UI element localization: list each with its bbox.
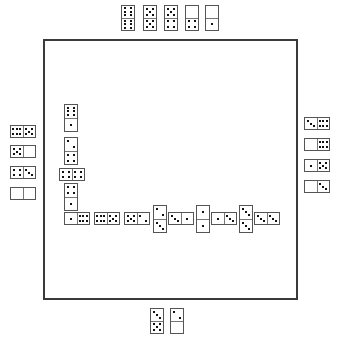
west-hand-domino-6-5[interactable]	[10, 125, 36, 138]
pip-icon	[112, 218, 114, 220]
north-hand-domino-5-4[interactable]	[164, 5, 178, 31]
pip-icon	[326, 141, 328, 143]
west-hand-domino-5-0[interactable]	[10, 145, 36, 158]
pip-icon	[307, 120, 309, 122]
pip-icon	[109, 220, 111, 222]
north-hand-domino-0-1[interactable]	[205, 5, 219, 31]
domino-half-3	[154, 219, 166, 233]
domino-half-5	[317, 160, 330, 171]
pip-icon	[100, 220, 102, 222]
pip-icon	[319, 146, 321, 148]
domino-half-6	[317, 118, 330, 129]
pip-icon	[73, 114, 75, 116]
chain-domino-2-4	[64, 137, 78, 165]
pip-icon	[70, 124, 72, 126]
domino-half-0	[23, 188, 36, 199]
domino-half-3	[169, 213, 181, 224]
pip-icon	[130, 27, 132, 29]
pip-icon	[319, 167, 321, 169]
pip-icon	[242, 222, 244, 224]
pip-icon	[232, 220, 234, 222]
pip-icon	[149, 11, 151, 13]
domino-half-4	[165, 18, 177, 31]
pip-icon	[275, 220, 277, 222]
pip-icon	[124, 11, 126, 13]
pip-icon	[179, 317, 181, 319]
pip-icon	[80, 171, 82, 173]
south-hand-domino-2-0[interactable]	[170, 308, 184, 334]
pip-icon	[326, 120, 328, 122]
north-hand-domino-0-4[interactable]	[185, 5, 199, 31]
domino-half-1	[197, 206, 209, 219]
east-hand-domino-1-5[interactable]	[304, 159, 330, 172]
pip-icon	[86, 220, 88, 222]
domino-half-4	[11, 167, 23, 178]
pip-icon	[257, 215, 259, 217]
west-hand-domino-0-0[interactable]	[10, 187, 36, 200]
west-hand-domino-4-3[interactable]	[10, 166, 36, 179]
domino-half-3	[224, 213, 237, 224]
pip-icon	[146, 20, 148, 22]
pip-icon	[12, 133, 14, 135]
domino-half-5	[165, 6, 177, 18]
pip-icon	[12, 128, 14, 130]
pip-icon	[248, 228, 250, 230]
east-hand-domino-3-6[interactable]	[304, 117, 330, 130]
pip-icon	[159, 323, 161, 325]
pip-icon	[67, 154, 69, 156]
pip-icon	[146, 26, 148, 28]
domino-half-5	[144, 18, 156, 31]
east-hand-domino-0-6[interactable]	[304, 138, 330, 151]
north-hand-domino-6-6[interactable]	[121, 5, 135, 31]
chain-domino-3-1	[168, 212, 194, 225]
pip-icon	[322, 165, 324, 167]
pip-icon	[263, 220, 265, 222]
pip-icon	[73, 146, 75, 148]
pip-icon	[74, 176, 76, 178]
south-hand-domino-3-5[interactable]	[150, 308, 164, 334]
pip-icon	[226, 215, 228, 217]
pip-icon	[173, 311, 175, 313]
pip-icon	[319, 120, 321, 122]
pip-icon	[133, 220, 135, 222]
pip-icon	[31, 128, 33, 130]
pip-icon	[130, 14, 132, 16]
pip-icon	[70, 203, 72, 205]
pip-icon	[173, 8, 175, 10]
pip-icon	[73, 160, 75, 162]
domino-half-6	[65, 105, 77, 118]
pip-icon	[156, 314, 158, 316]
pip-icon	[174, 218, 176, 220]
domino-half-2	[137, 213, 150, 224]
pip-icon	[167, 8, 169, 10]
domino-half-3	[267, 213, 280, 224]
east-hand-domino-0-3[interactable]	[304, 180, 330, 193]
pip-icon	[100, 215, 102, 217]
pip-icon	[67, 186, 69, 188]
domino-half-1	[206, 18, 218, 31]
domino-half-3	[317, 181, 330, 192]
pip-icon	[16, 128, 18, 130]
north-hand-domino-5-5[interactable]	[143, 5, 157, 31]
pip-icon	[167, 20, 169, 22]
pip-icon	[156, 326, 158, 328]
chain-domino-3-3	[239, 205, 253, 233]
domino-half-6	[95, 213, 107, 224]
pip-icon	[162, 228, 164, 230]
pip-icon	[124, 23, 126, 25]
pip-icon	[13, 148, 15, 150]
domino-half-4	[65, 184, 77, 197]
chain-domino-2-3	[153, 205, 167, 233]
domino-half-3	[305, 118, 317, 129]
pip-icon	[96, 215, 98, 217]
pip-icon	[19, 153, 21, 155]
domino-half-4	[186, 18, 198, 31]
pip-icon	[115, 215, 117, 217]
pip-icon	[188, 26, 190, 28]
pip-icon	[217, 218, 219, 220]
pip-icon	[19, 174, 21, 176]
domino-half-0	[206, 6, 218, 18]
tile-layer	[0, 0, 339, 348]
pip-icon	[67, 114, 69, 116]
pip-icon	[31, 174, 33, 176]
